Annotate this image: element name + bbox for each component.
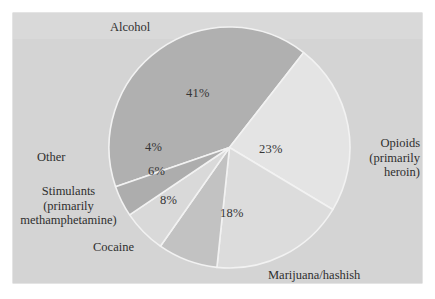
category-label-opioids: Opioids (primarily heroin) — [335, 136, 420, 180]
slice-value-stimulants: 6% — [148, 164, 165, 179]
slice-value-alcohol: 41% — [186, 86, 210, 101]
category-label-opioids-line3: heroin) — [335, 165, 420, 180]
category-label-other: Other — [37, 150, 65, 165]
category-label-stimulants-line1: Stimulants — [6, 184, 131, 199]
chart-figure: 41% 23% 18% 8% 6% 4% Alcohol Opioids (pr… — [0, 0, 435, 299]
category-label-opioids-line2: (primarily — [335, 151, 420, 166]
category-label-opioids-line1: Opioids — [335, 136, 420, 151]
category-label-cocaine: Cocaine — [93, 240, 134, 255]
slice-value-other: 4% — [145, 140, 162, 155]
category-label-stimulants-line3: methamphetamine) — [6, 213, 131, 228]
slice-value-opioids: 23% — [259, 142, 283, 157]
category-label-marijuana: Marijuana/hashish — [268, 268, 360, 283]
category-label-stimulants: Stimulants (primarily methamphetamine) — [6, 184, 131, 228]
category-label-alcohol: Alcohol — [110, 20, 150, 35]
slice-value-marijuana: 18% — [220, 206, 244, 221]
slice-value-cocaine: 8% — [160, 193, 177, 208]
category-label-stimulants-line2: (primarily — [6, 199, 131, 214]
